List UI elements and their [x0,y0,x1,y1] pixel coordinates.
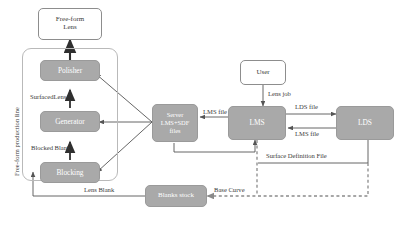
node-lms[interactable]: LMS [228,106,286,140]
node-blanks-stock[interactable]: Blanks stock [145,185,207,207]
diagram-canvas: Free-form production line Free-form Lens… [0,0,410,232]
node-free-form-lens[interactable]: Free-form Lens [38,8,102,40]
node-lds[interactable]: LDS [336,106,394,140]
node-server[interactable]: Server LMS+SDF files [152,104,198,142]
label-lds-file: LDS file [295,103,318,110]
free-form-production-line-label: Free-form production line [13,107,20,176]
node-lds-label: LDS [358,119,372,127]
node-polisher-label: Polisher [58,67,82,75]
node-blocking-label: Blocking [56,169,83,177]
label-lms-file-right: LMS file [295,130,319,137]
node-lms-label: LMS [249,119,264,127]
node-free-form-lens-line2: Lens [63,24,77,32]
node-server-line1: Server [167,111,184,119]
node-blanks-stock-label: Blanks stock [158,192,194,200]
label-base-curve: Base Curve [214,186,245,193]
node-blocking[interactable]: Blocking [40,162,100,183]
node-generator[interactable]: Generator [40,111,100,132]
label-blocked-blank: Blocked Blank [31,144,70,151]
node-server-line2: LMS+SDF [161,119,189,127]
label-lens-blank: Lens Blank [84,186,114,193]
label-surfaced-lens: SurfacedLens [30,93,66,100]
node-user-label: User [256,69,269,77]
node-user[interactable]: User [240,60,286,85]
node-generator-label: Generator [55,118,85,126]
label-surface-definition-file: Surface Definition File [266,152,327,159]
label-lms-file-left: LMS file [203,108,227,115]
node-server-line3: files [169,127,180,135]
node-polisher[interactable]: Polisher [40,60,100,81]
label-lens-job: Lens job [268,90,291,97]
